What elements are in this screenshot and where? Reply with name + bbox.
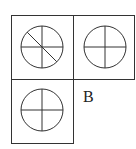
circle-divided-four-icon <box>21 89 63 131</box>
circle-divided-six-icon <box>21 26 63 68</box>
option-label: B <box>83 88 94 106</box>
figure-grid: B <box>0 0 136 149</box>
figure-grid-svg <box>0 0 136 149</box>
circle-divided-four-icon <box>84 26 126 68</box>
